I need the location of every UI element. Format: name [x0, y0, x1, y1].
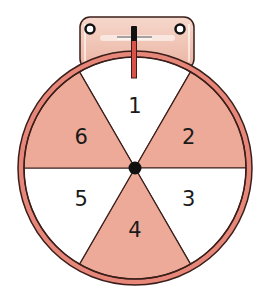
spinner-diagram: 123456	[0, 0, 264, 302]
sector-label: 1	[128, 94, 141, 118]
hub-pivot-icon	[129, 162, 142, 175]
screw-right-icon	[176, 25, 185, 34]
sector-label: 4	[128, 218, 141, 242]
sector-label: 2	[182, 125, 195, 149]
spinner-wheel: 123456	[18, 51, 252, 285]
screw-left-icon	[86, 25, 95, 34]
sector-label: 5	[75, 187, 88, 211]
sector-label: 3	[182, 187, 195, 211]
sector-label: 6	[75, 125, 88, 149]
